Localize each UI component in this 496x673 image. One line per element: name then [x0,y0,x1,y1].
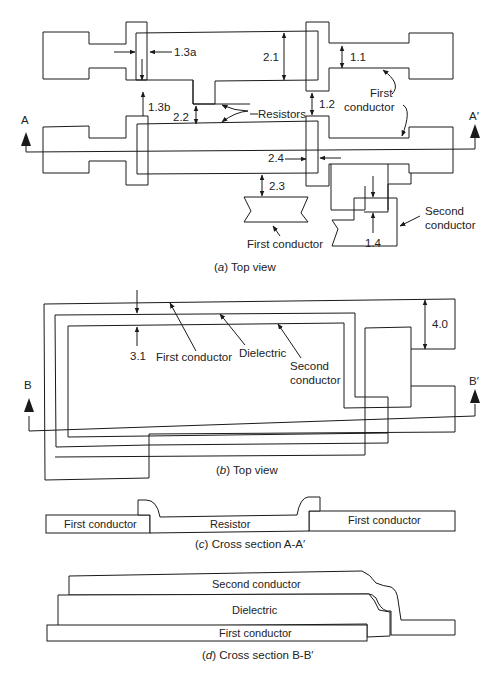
dim-2-4: 2.4 [268,152,285,164]
section-arrow-b-left [24,398,34,412]
caption-a: (a) Top view [214,261,277,273]
section-line-a [26,138,475,152]
section-label-a-prime: A′ [469,110,479,122]
panel-a-top-view: A A′ 1.3a 1.3b 2.2 Resistors 2.1 1.1 1.2… [21,22,480,273]
b-second-conductor-label-1: Second [290,360,329,372]
dim-4-0: 4.0 [432,318,448,330]
dim-2-1: 2.1 [263,51,279,63]
dim-3-1: 3.1 [130,350,146,362]
dim-1-3b: 1.3b [148,101,170,113]
section-label-b-prime: B′ [469,375,479,387]
lower-resistor [137,121,318,174]
second-conductor-label-1: Second [425,205,464,217]
d-top-label: Second conductor [212,578,301,590]
section-label-b: B [24,379,32,391]
b-first-conductor [44,299,455,480]
section-arrow-a-right [470,124,480,138]
first-conductor-bottom-label: First conductor [247,238,323,250]
b-second-conductor-label-2: conductor [290,374,341,386]
b-second-conductor-right [55,327,411,457]
dim-2-2: 2.2 [173,111,189,123]
second-conductor-label-2: conductor [425,219,476,231]
section-label-a: A [21,114,29,126]
dim-1-1: 1.1 [350,51,366,63]
d-middle-label: Dielectric [232,604,278,616]
c-left-label: First conductor [64,518,137,530]
dim-1-4: 1.4 [365,237,382,249]
panel-b-top-view: 3.1 First conductor Dielectric Second co… [24,290,480,480]
panel-d-cross-section: Second conductor Dielectric First conduc… [47,571,455,661]
caption-b: (b) Top view [216,464,279,476]
first-conductor-label-2: conductor [344,101,395,113]
lower-first-conductor-right [306,116,453,186]
c-middle-label: Resistor [210,518,251,530]
branch-connector [331,164,388,210]
upper-resistor-step [193,80,250,104]
bottom-first-conductor-stub [244,197,308,222]
upper-resistor [136,31,318,104]
upper-first-conductor [43,22,147,80]
lower-first-conductor-left [43,116,148,185]
section-line-b [29,404,475,431]
b-first-conductor-label: First conductor [156,351,232,363]
caption-c: (c) Cross section A-A′ [195,538,305,550]
dim-1-3a: 1.3a [174,46,197,58]
panel-c-cross-section: First conductor Resistor First conductor… [46,497,455,550]
section-arrow-b-right [470,389,480,403]
design-rules-figure: A A′ 1.3a 1.3b 2.2 Resistors 2.1 1.1 1.2… [0,0,496,673]
dim-1-2: 1.2 [319,98,335,110]
d-bottom-label: First conductor [219,627,292,639]
upper-first-conductor-right [306,22,453,91]
dim-2-3: 2.3 [269,180,285,192]
section-arrow-a-left [21,132,31,146]
d-first-conductor [47,625,367,641]
c-right-label: First conductor [348,514,421,526]
first-conductor-label-1: First [370,87,393,99]
resistors-label: Resistors [258,108,306,120]
b-dielectric-label: Dielectric [239,347,287,359]
caption-d: (d) Cross section B-B′ [202,649,313,661]
